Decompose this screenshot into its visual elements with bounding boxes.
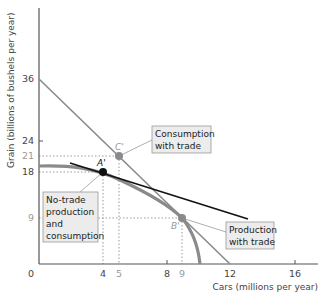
point-a-prime (99, 168, 107, 176)
svg-text:Consumption: Consumption (155, 129, 215, 139)
svg-text:production: production (46, 207, 94, 217)
x-tick-0: 0 (28, 268, 34, 279)
svg-text:Production: Production (229, 225, 277, 235)
y-axis-title: Grain (billions of bushels per year) (6, 12, 16, 168)
svg-text:and: and (46, 219, 63, 229)
point-c-prime (115, 152, 123, 160)
y-tick-24: 24 (22, 135, 34, 146)
ppf-trade-chart: C' A' B' Consumption with trade No-trade… (0, 0, 320, 296)
box-consumption-with-trade: Consumption with trade (152, 126, 215, 153)
label-c-prime: C' (115, 142, 124, 152)
x-tick-5: 5 (116, 268, 122, 279)
y-tick-36: 36 (22, 73, 34, 84)
x-tick-4: 4 (100, 268, 106, 279)
svg-text:with trade: with trade (229, 237, 275, 247)
box-production-with-trade: Production with trade (226, 222, 277, 249)
x-tick-12: 12 (224, 268, 236, 279)
label-b-prime: B' (171, 221, 180, 231)
x-axis-title: Cars (millions per year) (213, 282, 319, 292)
label-a-prime: A' (96, 158, 106, 168)
svg-text:with trade: with trade (155, 141, 201, 151)
x-tick-16: 16 (289, 268, 301, 279)
box-no-trade: No-trade production and consumption (43, 192, 104, 242)
svg-text:No-trade: No-trade (46, 195, 86, 205)
svg-text:consumption: consumption (46, 231, 104, 241)
y-tick-9: 9 (28, 212, 34, 223)
y-tick-18: 18 (22, 166, 34, 177)
y-tick-21: 21 (22, 150, 34, 161)
x-tick-9: 9 (179, 268, 185, 279)
x-tick-8: 8 (164, 268, 170, 279)
leader-lines (80, 140, 226, 232)
